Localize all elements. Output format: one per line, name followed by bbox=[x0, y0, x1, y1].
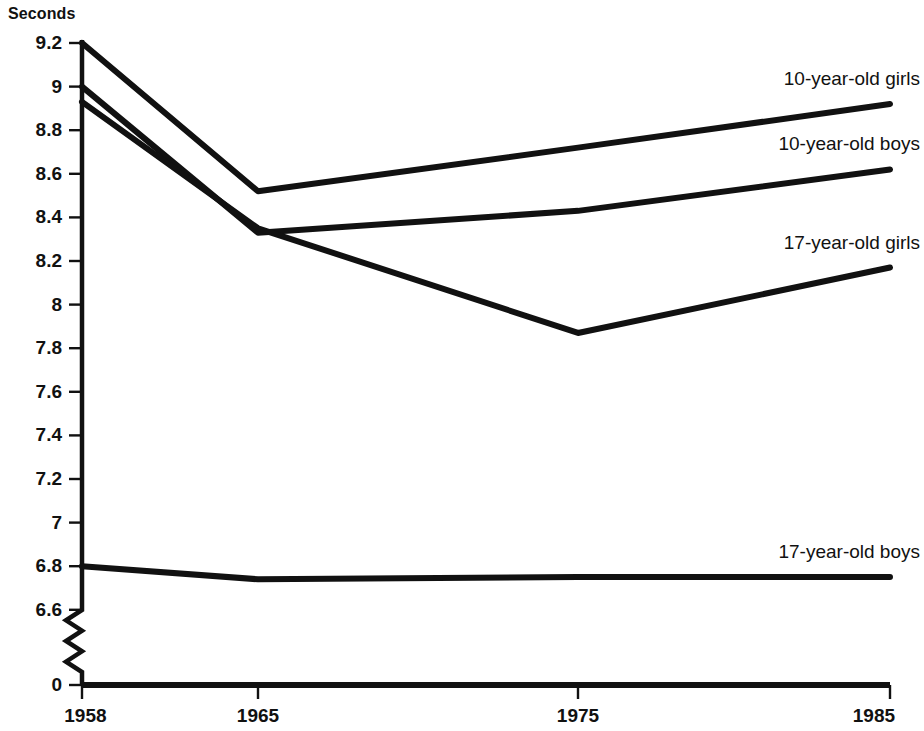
x-tick-label: 1975 bbox=[557, 705, 599, 727]
y-tick-label: 6.8 bbox=[0, 555, 62, 577]
y-tick-label: 7 bbox=[0, 512, 62, 534]
x-tick-label: 1958 bbox=[64, 705, 106, 727]
y-tick-label: 7.6 bbox=[0, 381, 62, 403]
y-tick-label: 8.4 bbox=[0, 206, 62, 228]
series-label-0: 10-year-old girls bbox=[784, 68, 920, 90]
chart-canvas bbox=[0, 0, 924, 731]
x-tick-label: 1985 bbox=[853, 705, 895, 727]
y-tick-label: 7.4 bbox=[0, 424, 62, 446]
y-tick-label: 7.2 bbox=[0, 468, 62, 490]
x-tick-label: 1965 bbox=[237, 705, 279, 727]
y-tick-label: 8.6 bbox=[0, 163, 62, 185]
y-tick-label: 7.8 bbox=[0, 337, 62, 359]
y-tick-label: 8.8 bbox=[0, 119, 62, 141]
y-tick-label: 6.6 bbox=[0, 599, 62, 621]
y-tick-label: 8 bbox=[0, 294, 62, 316]
y-tick-label: 8.2 bbox=[0, 250, 62, 272]
series-label-3: 17-year-old boys bbox=[778, 541, 920, 563]
y-tick-label: 9.2 bbox=[0, 32, 62, 54]
series-label-2: 17-year-old girls bbox=[784, 232, 920, 254]
data-series-group bbox=[82, 43, 890, 579]
y-tick-label: 9 bbox=[0, 76, 62, 98]
y-tick-label: 0 bbox=[0, 674, 62, 696]
series-line-0 bbox=[82, 43, 890, 191]
tick-marks-group bbox=[69, 43, 890, 699]
line-chart: Seconds 9.298.88.68.48.287.87.67.47.276.… bbox=[0, 0, 924, 731]
series-label-1: 10-year-old boys bbox=[778, 133, 920, 155]
series-line-3 bbox=[82, 566, 890, 579]
